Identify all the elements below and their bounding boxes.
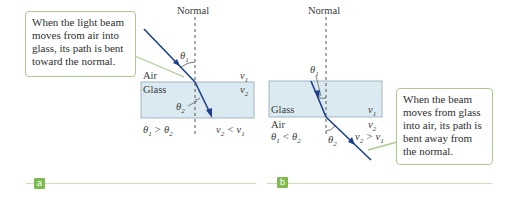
callout-box: When the beam moves from glass into air,… bbox=[396, 88, 493, 165]
panel-a: When the light beam moves from air into … bbox=[0, 0, 260, 197]
v-bottom-label: v2 bbox=[240, 84, 248, 100]
bottom-medium-label: Air bbox=[271, 119, 285, 131]
top-medium-label: Glass bbox=[271, 104, 294, 116]
top-medium-label: Air bbox=[143, 70, 157, 82]
theta1-label: θ1 bbox=[310, 64, 319, 80]
bottom-medium-label: Glass bbox=[143, 84, 166, 96]
normal-label: Normal bbox=[177, 5, 209, 17]
panel-b-tag: b bbox=[277, 177, 288, 188]
panel-a-rule bbox=[26, 183, 256, 184]
angle-relation: θ1 > θ2 bbox=[143, 124, 173, 140]
panel-b-rule bbox=[267, 183, 492, 184]
callout-text: When the beam moves from glass into air,… bbox=[403, 93, 482, 157]
theta2-arc bbox=[326, 126, 335, 131]
theta1-label: θ1 bbox=[180, 50, 189, 66]
callout-box: When the light beam moves from air into … bbox=[25, 11, 136, 77]
panel-b: When the beam moves from glass into air,… bbox=[253, 0, 513, 197]
theta2-label: θ2 bbox=[176, 101, 185, 117]
v-top-label: v1 bbox=[368, 104, 376, 120]
normal-label: Normal bbox=[308, 5, 340, 17]
panel-a-tag: a bbox=[34, 178, 45, 189]
speed-relation: v2 > v1 bbox=[355, 131, 384, 147]
theta2-label: θ2 bbox=[328, 134, 337, 150]
angle-relation: θ1 < θ2 bbox=[271, 131, 301, 147]
callout-text: When the light beam moves from air into … bbox=[32, 16, 124, 67]
speed-relation: v2 < v1 bbox=[216, 124, 245, 140]
